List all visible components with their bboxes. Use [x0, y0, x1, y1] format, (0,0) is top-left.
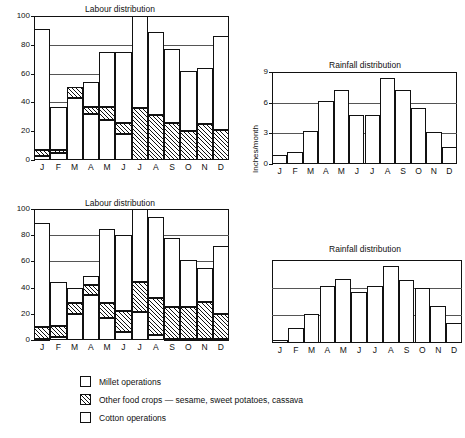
x-tick-label: A: [318, 167, 333, 176]
y-tick-label: 40: [4, 98, 30, 106]
legend-swatch-millet-icon: [80, 376, 91, 387]
bar-segment: [34, 223, 50, 326]
bar: [415, 288, 431, 343]
bar: [367, 286, 383, 343]
bar-segment: [34, 150, 50, 156]
x-tick-label: S: [164, 343, 180, 352]
bar-stack: [197, 268, 213, 340]
gridline: [272, 103, 457, 104]
legend-item: Other food crops — sesame, sweet potatoe…: [80, 394, 303, 405]
legend-swatch-cotton-icon: [80, 412, 91, 423]
y-tick-label: 6: [242, 99, 268, 107]
bar: [335, 279, 351, 343]
bar-segment: [83, 82, 99, 106]
x-tick-label: J: [272, 167, 287, 176]
x-tick-label: A: [83, 343, 99, 352]
bar-segment: [132, 108, 148, 160]
chart-labour-bottom: Labour distribution 020406080100JFMAMJJA…: [0, 195, 240, 365]
bar-segment: [50, 153, 66, 160]
x-tick-label: J: [132, 163, 148, 172]
y-tick-mark: [269, 72, 273, 73]
x-tick-label: A: [380, 167, 395, 176]
x-tick-label: A: [148, 163, 164, 172]
chart-title: Rainfall distribution: [290, 244, 440, 254]
bar: [304, 314, 320, 343]
x-tick-label: J: [34, 163, 50, 172]
x-tick-label: N: [197, 343, 213, 352]
bar-segment: [34, 156, 50, 160]
axis-left: [272, 260, 273, 343]
bar-segment: [164, 123, 180, 160]
x-tick-label: N: [197, 163, 213, 172]
chart-rainfall-bottom: Rainfall distribution JFMAMJJASOND: [245, 240, 465, 370]
y-tick-label: 20: [4, 310, 30, 318]
x-tick-label: M: [303, 167, 318, 176]
bar-segment: [67, 87, 83, 99]
x-tick-label: A: [83, 163, 99, 172]
bar-segment: [67, 288, 83, 304]
chart-title: Labour distribution: [40, 198, 200, 208]
y-tick-mark: [31, 160, 35, 161]
y-tick-mark: [269, 133, 273, 134]
bar-segment: [99, 229, 115, 304]
plot-area: 020406080100JFMAMJJASOND: [34, 16, 229, 160]
x-tick-label: J: [132, 343, 148, 352]
x-tick-label: S: [164, 163, 180, 172]
legend-label: Millet operations: [99, 377, 161, 387]
x-tick-label: J: [349, 167, 364, 176]
x-tick-label: F: [50, 343, 66, 352]
bar-segment: [180, 339, 196, 341]
bar-segment: [148, 32, 164, 116]
bar: [303, 131, 318, 164]
bar: [349, 115, 364, 164]
chart-title: Labour distribution: [40, 4, 200, 14]
bar-segment: [180, 260, 196, 307]
bar-segment: [83, 114, 99, 160]
chart-labour-top: Labour distribution 020406080100JFMAMJJA…: [0, 0, 240, 190]
bar-segment: [99, 318, 115, 340]
plot-area: JFMAMJJASOND: [272, 260, 462, 343]
legend-item: Cotton operations: [80, 412, 166, 423]
y-tick-label: 60: [4, 257, 30, 265]
legend-swatch-other-food-crops-icon: [80, 394, 91, 405]
x-tick-label: N: [430, 346, 446, 355]
x-tick-label: M: [304, 346, 320, 355]
bar-stack: [213, 36, 229, 160]
bar-stack: [180, 260, 196, 340]
bar-segment: [34, 339, 50, 341]
legend-label: Cotton operations: [99, 413, 166, 423]
bar: [365, 115, 380, 164]
bar: [272, 340, 288, 343]
y-tick-label: 0: [4, 156, 30, 164]
axis-top: [272, 260, 462, 261]
y-tick-label: 0: [4, 336, 30, 344]
bar: [399, 280, 415, 343]
plot-area: 020406080100JFMAMJJASOND: [34, 209, 229, 340]
bar-stack: [34, 29, 50, 160]
x-tick-label: F: [288, 346, 304, 355]
bar-segment: [34, 327, 50, 339]
bar-segment: [67, 303, 83, 313]
bar: [320, 286, 336, 343]
bar: [287, 152, 302, 164]
bar-stack: [115, 235, 131, 340]
bar-segment: [115, 332, 131, 340]
x-tick-label: S: [399, 346, 415, 355]
bar: [383, 266, 399, 343]
y-tick-mark: [31, 16, 35, 17]
bar: [334, 90, 349, 164]
bar-stack: [164, 49, 180, 160]
x-tick-label: D: [446, 346, 462, 355]
bar: [380, 78, 395, 164]
x-tick-label: M: [99, 163, 115, 172]
bar-stack: [67, 87, 83, 160]
bar-stack: [197, 68, 213, 160]
x-tick-label: O: [415, 346, 431, 355]
x-tick-label: N: [426, 167, 441, 176]
x-tick-label: A: [148, 343, 164, 352]
bar-segment: [197, 68, 213, 124]
bar-segment: [34, 29, 50, 150]
bar-segment: [132, 282, 148, 312]
bar-segment: [132, 312, 148, 340]
bar-stack: [180, 71, 196, 160]
